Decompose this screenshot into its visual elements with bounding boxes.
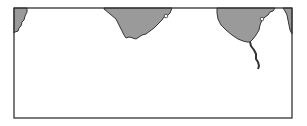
river-layer: [250, 42, 259, 69]
city-marker-center: [164, 14, 168, 18]
city-marker-right: [260, 17, 264, 21]
map-canvas[interactable]: [0, 0, 307, 126]
landmass-far-right: [283, 8, 292, 34]
landmass-center: [104, 8, 172, 39]
river: [250, 42, 259, 69]
map-view[interactable]: [0, 0, 307, 126]
land-layer: [14, 8, 292, 42]
landmass-left: [14, 8, 27, 33]
landmass-right: [217, 8, 275, 42]
